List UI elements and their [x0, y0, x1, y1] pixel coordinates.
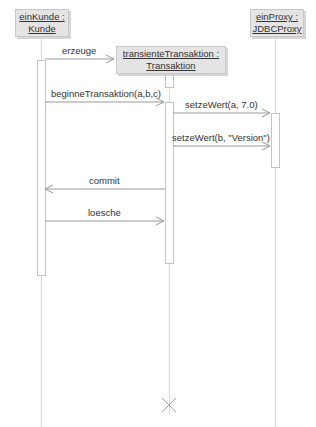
message-loesche: loesche [88, 207, 121, 218]
message-setze-wert-b: setzeWert(b, "Version") [172, 132, 270, 143]
message-arrows [0, 0, 316, 427]
message-beginne-transaktion: beginneTransaktion(a,b,c) [51, 88, 161, 99]
x-destroy-icon [162, 398, 176, 412]
message-commit: commit [89, 175, 120, 186]
message-erzeuge: erzeuge [62, 45, 96, 56]
message-setze-wert-a: setzeWert(a, 7.0) [185, 99, 258, 110]
